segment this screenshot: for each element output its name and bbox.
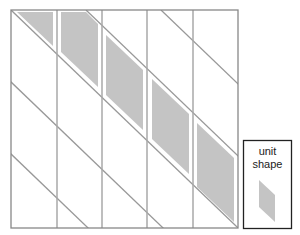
- unit-shape-legend: unit shape: [244, 141, 292, 229]
- legend-label-shape: shape: [253, 158, 283, 170]
- tile-col-3: [106, 35, 143, 130]
- tile-col-4: [152, 79, 189, 174]
- legend-label-unit: unit: [259, 145, 277, 157]
- tiling-diagram: unit shape: [0, 0, 300, 235]
- tile-col-1: [17, 12, 53, 46]
